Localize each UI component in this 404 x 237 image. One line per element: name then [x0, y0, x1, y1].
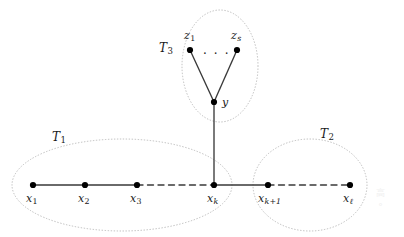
vertex-nodes-layer [30, 47, 353, 188]
vertex-label-x3: x3 [130, 193, 142, 204]
vertex-xk [211, 182, 217, 188]
vertex-xk1 [265, 182, 271, 188]
vertex-x3 [134, 182, 140, 188]
vertex-x2 [82, 182, 88, 188]
vertex-xl [347, 182, 353, 188]
edges-layer [33, 50, 350, 185]
vertex-label-zs: zs [231, 30, 241, 41]
vertex-label-xk: xk [207, 193, 218, 204]
ellipsis-dots: · · · [203, 48, 230, 60]
group-label-t2: T2 [320, 128, 334, 140]
group-label-t3: T3 [159, 42, 173, 54]
vertex-label-z1: z1 [184, 30, 195, 41]
vertex-label-xl: xℓ [343, 193, 353, 204]
vertex-label-y: y [222, 97, 228, 108]
vertex-zs [234, 47, 240, 53]
vertex-z1 [187, 47, 193, 53]
vertex-y [211, 99, 217, 105]
group-label-t1: T1 [52, 131, 66, 143]
vertex-label-x2: x2 [78, 193, 90, 204]
vertex-x1 [30, 182, 36, 188]
vertex-label-x1: x1 [26, 193, 38, 204]
vertex-label-xk1: xk+1 [258, 193, 281, 204]
group-ellipse-t3 [182, 10, 258, 122]
group-outlines-layer [12, 10, 367, 231]
watermark: 高 ° [376, 186, 385, 215]
graph-figure: x1x2x3xkxk+1xℓyz1zsT1T2T3 · · · 高 ° [0, 0, 404, 237]
